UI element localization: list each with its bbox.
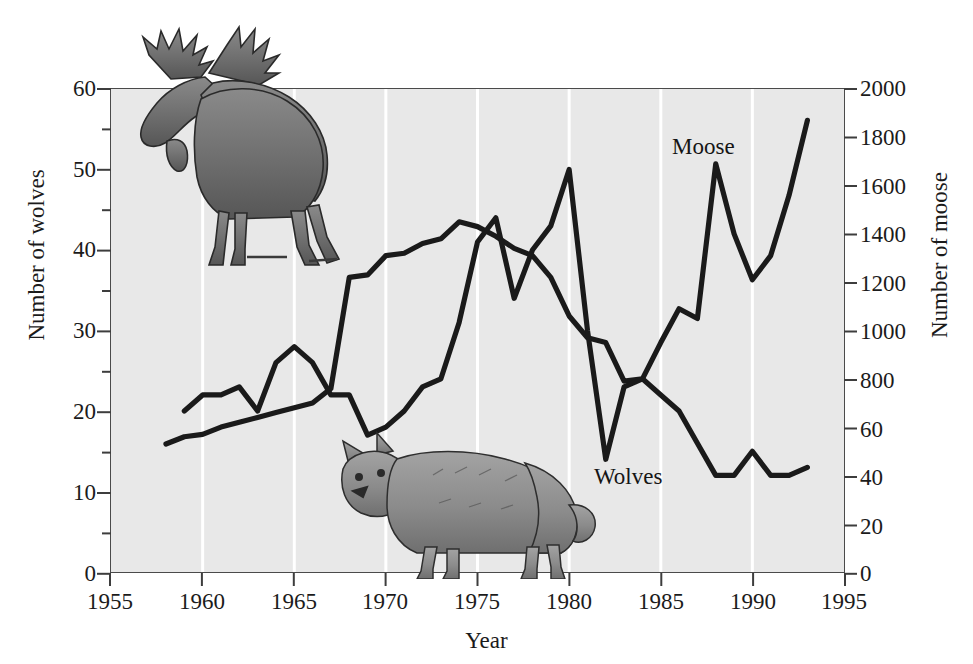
y-right-tick-1000: 1000	[860, 320, 906, 343]
x-tick-1970: 1970	[335, 590, 435, 613]
y-right-tick-marks	[843, 78, 859, 586]
y-axis-right-title: Number of moose	[927, 125, 953, 385]
y-left-tick-10: 10	[48, 481, 96, 504]
y-right-tick-0: 0	[860, 562, 872, 585]
y-right-tick-400: 40	[860, 466, 883, 489]
plot-canvas	[111, 89, 844, 572]
y-right-tick-1400: 1400	[860, 223, 906, 246]
y-right-tick-1200: 1200	[860, 272, 906, 295]
y-right-tick-800: 800	[860, 369, 895, 392]
y-left-tick-marks	[96, 78, 112, 586]
series-label-moose: Moose	[672, 134, 735, 160]
y-right-tick-600: 60	[860, 418, 883, 441]
y-right-tick-200: 20	[860, 515, 883, 538]
series-line-wolves	[184, 169, 807, 475]
plot-area	[110, 88, 845, 573]
x-axis-title: Year	[0, 628, 973, 654]
y-left-tick-0: 0	[48, 562, 96, 585]
y-left-tick-50: 50	[48, 158, 96, 181]
x-tick-1980: 1980	[519, 590, 619, 613]
x-tick-1975: 1975	[427, 590, 527, 613]
x-tick-1960: 1960	[152, 590, 252, 613]
y-right-tick-2000: 2000	[860, 77, 906, 100]
wolf-moose-population-chart: 60 50 40 30 20 10 0 2000 1800 1600 1400 …	[0, 0, 973, 664]
x-tick-1955: 1955	[60, 590, 160, 613]
y-left-tick-60: 60	[48, 77, 96, 100]
y-right-tick-1600: 1600	[860, 175, 906, 198]
y-left-tick-30: 30	[48, 319, 96, 342]
x-tick-1990: 1990	[703, 590, 803, 613]
y-left-tick-40: 40	[48, 238, 96, 261]
x-tick-1985: 1985	[611, 590, 711, 613]
y-axis-left-title: Number of wolves	[24, 125, 50, 385]
x-tick-1995: 1995	[794, 590, 894, 613]
x-tick-marks	[104, 572, 854, 588]
series-label-wolves: Wolves	[594, 464, 662, 490]
x-tick-1965: 1965	[244, 590, 344, 613]
y-left-tick-20: 20	[48, 400, 96, 423]
y-right-tick-1800: 1800	[860, 126, 906, 149]
